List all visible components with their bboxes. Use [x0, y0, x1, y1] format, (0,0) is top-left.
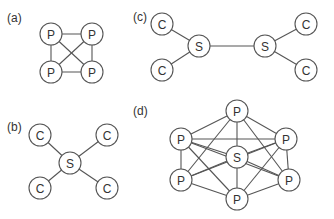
node-peer: P — [275, 128, 297, 150]
panel-d-hybrid-mesh: (d)PPPSPPP — [133, 100, 300, 210]
node-label: S — [261, 40, 269, 54]
node-peer: P — [226, 100, 248, 122]
node-label: C — [158, 18, 167, 32]
node-label: S — [66, 157, 74, 171]
node-label: P — [285, 174, 293, 188]
node-client: C — [29, 124, 51, 146]
node-peer: P — [226, 188, 248, 210]
node-peer: P — [81, 23, 103, 45]
node-label: P — [233, 193, 241, 207]
node-client: C — [96, 177, 118, 199]
node-client: C — [29, 177, 51, 199]
node-label: S — [233, 151, 241, 165]
node-label: C — [103, 182, 112, 196]
network-topology-diagram: (a)PPPP (c)CCSSCC (b)CCSCC (d)PPPSPPP — [0, 0, 334, 219]
node-client: C — [295, 59, 317, 81]
node-client: C — [96, 124, 118, 146]
node-client: C — [151, 59, 173, 81]
node-label: P — [282, 133, 290, 147]
node-label: P — [88, 28, 96, 42]
node-label: C — [103, 129, 112, 143]
node-client: C — [295, 13, 317, 35]
node-peer: P — [278, 169, 300, 191]
node-server: S — [59, 152, 81, 174]
node-label: P — [177, 133, 185, 147]
node-label: P — [177, 174, 185, 188]
panel-label: (b) — [7, 120, 22, 134]
node-label: S — [195, 40, 203, 54]
node-server: S — [254, 35, 276, 57]
node-label: P — [233, 105, 241, 119]
node-label: P — [88, 66, 96, 80]
panel-label: (c) — [133, 10, 147, 24]
node-label: P — [47, 66, 55, 80]
node-label: C — [302, 64, 311, 78]
node-label: C — [36, 129, 45, 143]
node-label: C — [36, 182, 45, 196]
node-client: C — [151, 13, 173, 35]
node-peer: P — [81, 61, 103, 83]
node-label: C — [302, 18, 311, 32]
panel-label: (d) — [133, 104, 148, 118]
node-peer: P — [40, 61, 62, 83]
node-peer: P — [40, 23, 62, 45]
node-server: S — [226, 146, 248, 168]
panel-a-fully-connected-peers: (a)PPPP — [7, 11, 103, 83]
node-server: S — [188, 35, 210, 57]
node-peer: P — [170, 169, 192, 191]
node-label: C — [158, 64, 167, 78]
panel-b-star-server: (b)CCSCC — [7, 120, 118, 199]
node-label: P — [47, 28, 55, 42]
node-peer: P — [170, 128, 192, 150]
panel-c-linked-servers: (c)CCSSCC — [133, 10, 317, 81]
panel-label: (a) — [7, 11, 22, 25]
